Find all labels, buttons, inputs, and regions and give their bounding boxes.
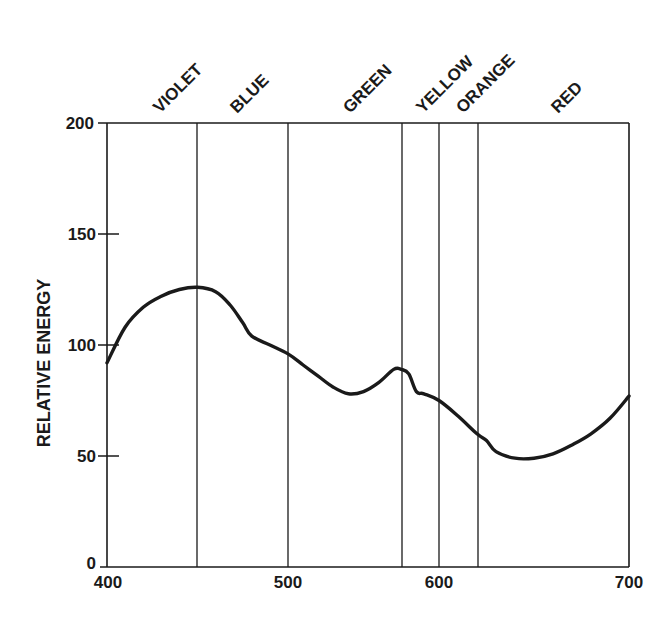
energy-curve [107,287,629,459]
y-tick-label-200: 200 [66,114,94,133]
x-tick-label-400: 400 [94,573,122,592]
spectral-energy-chart: 200 150 100 50 0 400 500 600 700 RELATIV… [0,0,667,626]
band-label-blue: BLUE [226,71,272,117]
y-tick-label-100: 100 [68,336,96,355]
x-tick-label-600: 600 [425,573,453,592]
band-label-red: RED [547,78,586,117]
band-label-green: GREEN [339,61,395,117]
y-tick-label-50: 50 [77,447,96,466]
x-tick-label-500: 500 [274,573,302,592]
y-tick-label-0: 0 [87,554,96,573]
x-tick-label-700: 700 [615,573,643,592]
y-axis-title: RELATIVE ENERGY [34,279,54,448]
band-label-violet: VIOLET [149,60,206,117]
y-tick-label-150: 150 [68,225,96,244]
